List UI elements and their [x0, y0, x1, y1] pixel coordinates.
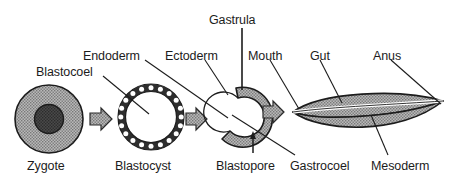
label-anus: Anus: [373, 50, 401, 63]
label-mesoderm: Mesoderm: [371, 160, 429, 173]
label-gastrocoel: Gastrocoel: [290, 160, 349, 173]
label-mouth: Mouth: [248, 50, 282, 63]
label-blastopore: Blastopore: [216, 160, 275, 173]
gastrocoel-cavity-outline: [204, 92, 238, 132]
stage-larva: [293, 93, 443, 127]
label-blastocoel: Blastocoel: [36, 66, 93, 79]
diagram-canvas: Blastocoel Endoderm Ectoderm Gastrula Mo…: [0, 0, 465, 187]
stage-zygote: [15, 85, 83, 153]
label-gut: Gut: [310, 50, 330, 63]
label-endoderm: Endoderm: [83, 50, 140, 63]
zygote-nucleus: [35, 105, 64, 134]
label-blastocyst: Blastocyst: [115, 160, 171, 173]
label-zygote: Zygote: [27, 160, 65, 173]
label-ectoderm: Ectoderm: [165, 50, 218, 63]
blastocyst-cavity: [126, 92, 177, 143]
transition-arrow-1: [90, 108, 112, 130]
stage-gastrula: [204, 87, 273, 147]
leader-ectoderm: [205, 60, 228, 95]
label-gastrula: Gastrula: [209, 14, 255, 27]
leader-gut: [320, 60, 342, 103]
stage-blastocyst: [118, 84, 184, 150]
